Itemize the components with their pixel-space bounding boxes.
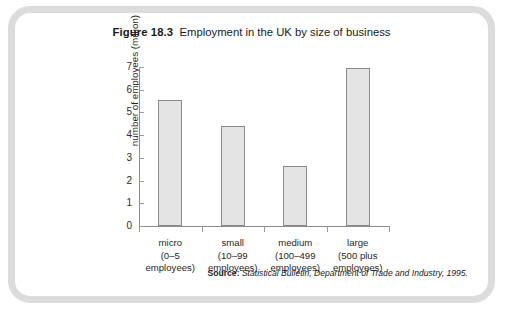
source-note: Source: Statistical Bulletin, Department… xyxy=(208,268,469,278)
y-tick-label: 4 xyxy=(110,130,132,140)
x-tick-mark xyxy=(202,226,203,232)
x-tick-mark xyxy=(389,226,390,232)
y-tick-mark xyxy=(139,90,144,91)
x-tick-mark xyxy=(264,226,265,232)
figure-title: Figure 18.3 Employment in the UK by size… xyxy=(15,26,488,38)
x-category-label-line: large xyxy=(321,237,396,250)
x-category-label-line: (500 plus xyxy=(321,250,396,263)
y-tick-label: 7 xyxy=(110,62,132,72)
y-tick-mark xyxy=(139,112,144,113)
bar xyxy=(221,126,245,226)
y-tick-label: 1 xyxy=(110,198,132,208)
bar xyxy=(158,100,182,226)
y-tick-label: 0 xyxy=(110,221,132,231)
y-tick-label: 3 xyxy=(110,153,132,163)
source-label: Source: xyxy=(208,268,240,278)
bar xyxy=(283,166,307,226)
bar-chart: number of employees (million) 01234567 m… xyxy=(111,61,401,236)
x-tick-mark xyxy=(139,226,140,232)
figure-frame: Figure 18.3 Employment in the UK by size… xyxy=(8,6,495,303)
figure-number: Figure 18.3 xyxy=(112,26,173,38)
y-tick-mark xyxy=(139,203,144,204)
y-tick-label: 5 xyxy=(110,107,132,117)
y-tick-mark xyxy=(139,181,144,182)
x-tick-mark xyxy=(327,226,328,232)
y-tick-label: 6 xyxy=(110,85,132,95)
y-tick-mark xyxy=(139,135,144,136)
y-tick-label: 2 xyxy=(110,176,132,186)
y-tick-mark xyxy=(139,158,144,159)
figure-caption: Employment in the UK by size of business xyxy=(180,26,391,38)
bar xyxy=(346,68,370,226)
y-tick-mark xyxy=(139,67,144,68)
source-text: Statistical Bulletin, Department of Trad… xyxy=(242,268,468,278)
figure-inner: Figure 18.3 Employment in the UK by size… xyxy=(15,13,488,296)
